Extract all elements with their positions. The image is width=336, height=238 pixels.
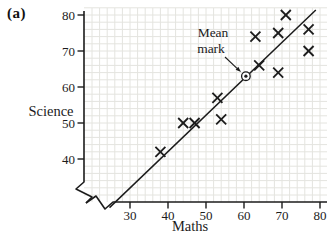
y-tick-label: 70 [62, 44, 75, 59]
x-tick-label: 30 [124, 208, 137, 223]
x-tick-label: 70 [276, 208, 289, 223]
y-tick-label: 40 [62, 152, 75, 167]
y-axis-label: Science [28, 103, 73, 119]
y-axis-ticks: 4050607080 [62, 8, 84, 167]
y-axis [76, 11, 92, 203]
mean-point-dot [244, 75, 247, 78]
mean-annotation-line2: mark [197, 41, 225, 56]
x-axis-label: Maths [172, 218, 209, 234]
x-tick-label: 80 [314, 208, 327, 223]
mean-point [242, 72, 251, 81]
figure: (a) 4050607080 304050607080 Science Math… [0, 0, 336, 238]
y-tick-label: 80 [62, 8, 75, 23]
x-tick-label: 60 [238, 208, 251, 223]
y-tick-label: 60 [62, 80, 75, 95]
mean-annotation-line1: Mean [198, 25, 229, 40]
panel-label: (a) [7, 5, 26, 22]
scatter-plot: 4050607080 304050607080 Science Maths Me… [0, 0, 336, 238]
x-axis-ticks: 304050607080 [124, 202, 327, 223]
